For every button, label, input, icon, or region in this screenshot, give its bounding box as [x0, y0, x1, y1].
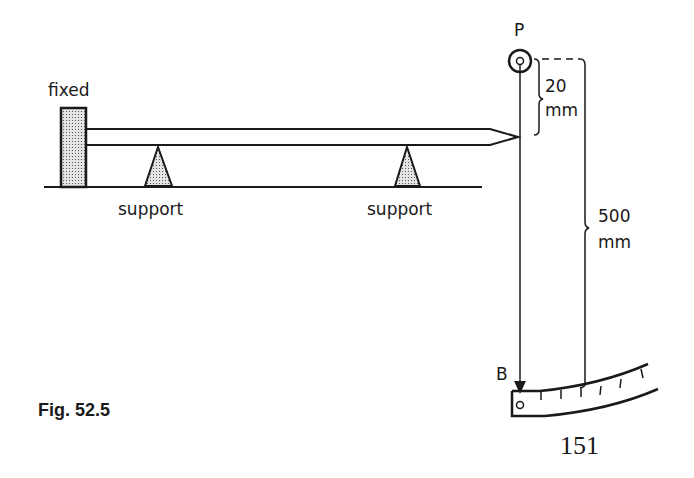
- scale-bottom-arc: [512, 389, 658, 416]
- label-20: 20: [545, 76, 567, 96]
- label-support-right: support: [367, 199, 432, 219]
- rod: [86, 129, 518, 145]
- label-b: B: [496, 364, 508, 384]
- scale-top-arc: [512, 364, 648, 391]
- support-right-triangle: [395, 147, 420, 186]
- scale-ticks: [541, 369, 643, 400]
- brace-20mm: [534, 59, 543, 135]
- pivot-b-circle: [517, 402, 524, 409]
- label-500: 500: [598, 206, 630, 226]
- label-500-unit: mm: [598, 232, 631, 252]
- label-support-left: support: [118, 199, 183, 219]
- label-pivot-p: P: [514, 20, 524, 40]
- page-number: 151: [560, 431, 599, 461]
- label-fixed: fixed: [48, 80, 90, 100]
- label-20-unit: mm: [545, 100, 578, 120]
- brace-500mm: [580, 59, 589, 384]
- support-left-triangle: [145, 147, 172, 186]
- fixed-block: [61, 108, 86, 187]
- figure-caption: Fig. 52.5: [38, 400, 110, 421]
- pivot-inner-circle: [517, 58, 524, 65]
